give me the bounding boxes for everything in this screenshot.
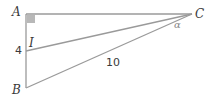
label-point-C: C xyxy=(195,8,204,20)
label-length-AI: 4 xyxy=(15,45,22,56)
label-angle-alpha: α xyxy=(174,20,181,30)
label-length-BC: 10 xyxy=(106,57,120,68)
label-point-B: B xyxy=(12,84,21,96)
right-angle-marker xyxy=(27,15,35,23)
segment-IC xyxy=(26,14,192,51)
segment-BC xyxy=(26,14,192,88)
label-point-I: I xyxy=(29,37,34,49)
label-point-A: A xyxy=(12,6,21,18)
